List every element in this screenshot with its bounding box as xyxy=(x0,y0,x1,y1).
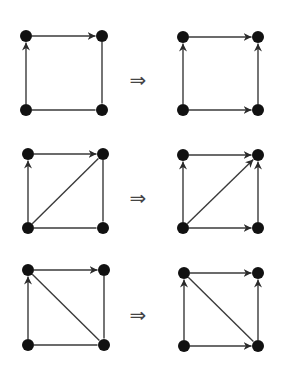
node-bl xyxy=(22,222,34,234)
right-graph xyxy=(178,267,264,352)
implies-arrow-icon: ⇒ xyxy=(130,303,147,327)
diagram-rows: ⇒⇒⇒ xyxy=(20,30,264,352)
node-tl xyxy=(177,31,189,43)
node-bl xyxy=(20,104,32,116)
node-tr xyxy=(252,267,264,279)
node-br xyxy=(96,104,108,116)
undirected-edge-tl-br xyxy=(32,274,99,340)
left-graph xyxy=(22,264,110,351)
row-3: ⇒ xyxy=(22,264,264,352)
right-graph xyxy=(177,31,264,116)
undirected-edge-tl-br xyxy=(188,277,253,341)
node-tr xyxy=(97,148,109,160)
implies-arrow-icon: ⇒ xyxy=(130,68,147,92)
row-1: ⇒ xyxy=(20,30,264,116)
node-br xyxy=(98,339,110,351)
directed-edge-bl-tr xyxy=(187,160,253,224)
left-graph xyxy=(20,30,108,116)
node-tl xyxy=(20,30,32,42)
graph-diagram: ⇒⇒⇒ xyxy=(0,0,286,370)
node-tl xyxy=(178,267,190,279)
node-br xyxy=(97,222,109,234)
node-tl xyxy=(22,148,34,160)
node-tr xyxy=(252,31,264,43)
node-bl xyxy=(177,104,189,116)
node-tl xyxy=(22,264,34,276)
implies-arrow-icon: ⇒ xyxy=(130,186,147,210)
node-br xyxy=(252,104,264,116)
node-bl xyxy=(22,339,34,351)
node-tr xyxy=(96,30,108,42)
node-tl xyxy=(177,149,189,161)
node-bl xyxy=(177,222,189,234)
node-tr xyxy=(252,149,264,161)
node-bl xyxy=(178,340,190,352)
left-graph xyxy=(22,148,109,234)
node-br xyxy=(252,222,264,234)
undirected-edge-bl-tr xyxy=(32,159,98,224)
right-graph xyxy=(177,149,264,234)
node-tr xyxy=(98,264,110,276)
row-2: ⇒ xyxy=(22,148,264,234)
node-br xyxy=(252,340,264,352)
